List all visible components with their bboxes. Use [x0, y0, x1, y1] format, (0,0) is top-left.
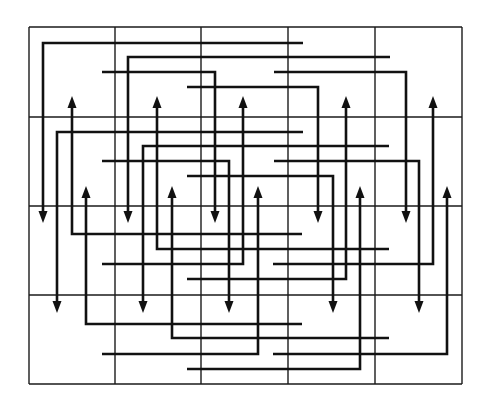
- grid: [29, 27, 462, 384]
- path-line: [102, 196, 258, 354]
- arrow-up-icon: [82, 186, 91, 198]
- routed-path: [102, 72, 220, 223]
- path-line: [86, 196, 302, 324]
- arrow-up-icon: [68, 96, 77, 108]
- arrow-up-icon: [429, 96, 438, 108]
- arrow-down-icon: [211, 211, 220, 223]
- arrow-up-icon: [168, 186, 177, 198]
- path-line: [72, 106, 302, 234]
- arrow-down-icon: [402, 211, 411, 223]
- routed-path: [274, 161, 424, 313]
- arrow-down-icon: [314, 211, 323, 223]
- arrow-up-icon: [356, 186, 365, 198]
- routed-path: [187, 96, 351, 279]
- arrow-up-icon: [342, 96, 351, 108]
- arrow-up-icon: [153, 96, 162, 108]
- routed-path: [53, 132, 304, 313]
- path-line: [43, 43, 303, 213]
- routed-path: [139, 146, 390, 313]
- path-line: [273, 106, 433, 264]
- routed-path: [273, 96, 438, 264]
- arrow-down-icon: [53, 301, 62, 313]
- path-line: [187, 87, 318, 213]
- routed-path: [274, 72, 411, 223]
- routed-path: [273, 186, 452, 354]
- routing-diagram: [0, 0, 489, 398]
- arrow-down-icon: [124, 211, 133, 223]
- arrow-down-icon: [329, 301, 338, 313]
- routed-path: [102, 96, 248, 264]
- arrow-up-icon: [254, 186, 263, 198]
- arrow-down-icon: [415, 301, 424, 313]
- arrow-down-icon: [225, 301, 234, 313]
- arrow-down-icon: [39, 211, 48, 223]
- path-line: [57, 132, 303, 303]
- path-line: [157, 106, 389, 249]
- routed-path: [153, 96, 390, 249]
- path-line: [102, 72, 215, 213]
- routed-path: [187, 87, 323, 223]
- routed-path: [187, 176, 338, 313]
- arrow-up-icon: [239, 96, 248, 108]
- path-line: [102, 161, 229, 303]
- path-line: [172, 196, 389, 338]
- path-line: [274, 72, 406, 213]
- arrow-up-icon: [443, 186, 452, 198]
- arrow-down-icon: [139, 301, 148, 313]
